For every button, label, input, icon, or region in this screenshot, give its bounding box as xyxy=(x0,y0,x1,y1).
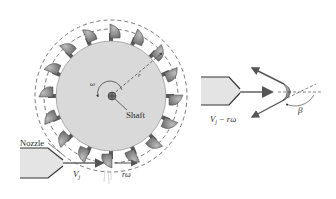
detail-nozzle xyxy=(201,77,240,105)
bucket xyxy=(39,87,57,98)
jet-velocity-label: Vj xyxy=(73,169,81,180)
diagram-canvas: r ω Shaft Nozzle Vj rω β Vj − rω xyxy=(0,0,336,199)
nozzle-label: Nozzle xyxy=(20,138,44,148)
pelton-wheel-diagram: r ω Shaft Nozzle Vj rω β Vj − rω xyxy=(0,0,336,199)
radius-label: r xyxy=(138,71,141,79)
beta-label: β xyxy=(297,105,303,115)
bucket-speed-label: rω xyxy=(122,170,131,179)
bucket xyxy=(165,94,183,105)
deflected-arrow-up xyxy=(252,68,284,84)
relative-velocity-label: Vj − rω xyxy=(210,114,236,125)
nozzle xyxy=(20,148,63,178)
bucket xyxy=(102,150,113,168)
deflected-arrow-down xyxy=(252,100,284,117)
shaft-label: Shaft xyxy=(126,110,145,120)
omega-label: ω xyxy=(90,80,95,88)
bucket xyxy=(109,24,120,42)
